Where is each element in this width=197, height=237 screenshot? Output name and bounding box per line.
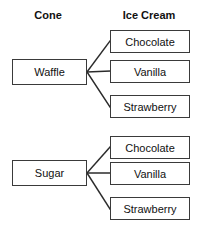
connector-waffle-chocolate bbox=[87, 41, 110, 72]
connector-sugar-strawberry bbox=[87, 173, 110, 209]
node-sugar-strawberry: Strawberry bbox=[110, 197, 190, 220]
column-header-cone: Cone bbox=[8, 9, 88, 21]
node-sugar-vanilla: Vanilla bbox=[110, 162, 190, 185]
node-sugar-chocolate: Chocolate bbox=[110, 136, 190, 159]
node-cone-waffle: Waffle bbox=[12, 59, 87, 85]
node-cone-sugar: Sugar bbox=[12, 160, 87, 186]
tree-diagram: Cone Ice Cream Waffle Chocolate Vanilla … bbox=[0, 0, 197, 237]
connector-waffle-strawberry bbox=[87, 72, 110, 107]
node-waffle-chocolate: Chocolate bbox=[110, 30, 190, 53]
connector-waffle-vanilla bbox=[87, 71, 110, 72]
column-header-ice-cream: Ice Cream bbox=[105, 9, 193, 21]
node-waffle-strawberry: Strawberry bbox=[110, 95, 190, 118]
connector-sugar-chocolate bbox=[87, 147, 110, 173]
node-waffle-vanilla: Vanilla bbox=[110, 60, 190, 83]
